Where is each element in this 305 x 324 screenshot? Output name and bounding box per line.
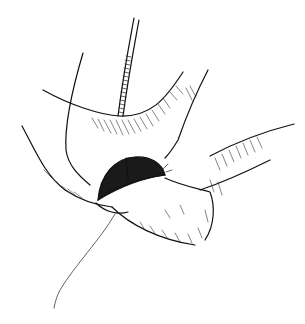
catheter-tube <box>118 18 139 116</box>
opening <box>96 157 165 213</box>
illustration <box>0 0 305 324</box>
surgical-drawing <box>0 0 305 324</box>
bowel-segment <box>112 124 294 245</box>
